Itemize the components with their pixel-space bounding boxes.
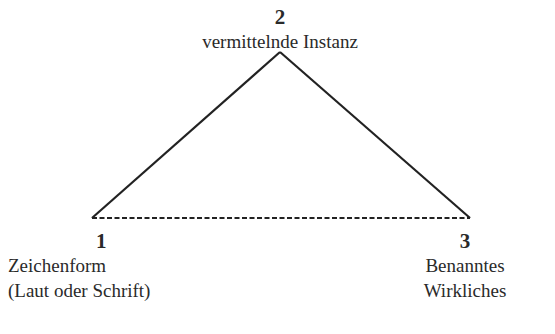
node-2-number: 2: [180, 5, 380, 29]
edge-1-2: [92, 52, 280, 218]
edge-2-3: [280, 52, 470, 218]
node-1-number: 1: [4, 229, 204, 253]
semiotic-triangle-diagram: 2 vermittelnde Instanz 1 Zeichenform (La…: [0, 0, 555, 334]
node-1-label: 1 Zeichenform (Laut oder Schrift): [4, 229, 204, 303]
node-1-text-line2: (Laut oder Schrift): [4, 278, 204, 303]
node-2-label: 2 vermittelnde Instanz: [180, 5, 380, 54]
node-3-text-line1: Benanntes: [380, 253, 550, 278]
node-3-label: 3 Benanntes Wirkliches: [380, 229, 550, 303]
node-3-text-line2: Wirkliches: [380, 278, 550, 303]
node-3-number: 3: [380, 229, 550, 253]
node-2-text: vermittelnde Instanz: [180, 29, 380, 54]
node-1-text-line1: Zeichenform: [4, 253, 204, 278]
